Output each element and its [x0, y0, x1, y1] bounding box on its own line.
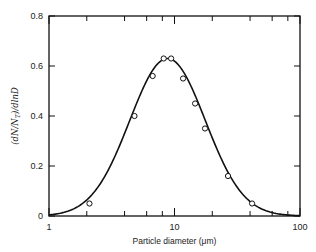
x-axis-title: Particle diameter (μm): [133, 236, 217, 246]
y-tick-label: 0.6: [30, 61, 43, 71]
data-point: [202, 126, 207, 131]
data-point: [225, 173, 230, 178]
x-axis-ticks: 110100: [46, 16, 307, 232]
x-tick-label: 100: [292, 222, 307, 232]
data-point: [180, 76, 185, 81]
data-point: [193, 101, 198, 106]
y-tick-label: 0: [38, 211, 43, 221]
y-tick-label: 0.8: [30, 11, 43, 21]
y-tick-label: 0.4: [30, 111, 43, 121]
plot-frame: [49, 16, 300, 216]
y-axis-title: (dN/NT)/dlnD: [10, 87, 22, 145]
data-markers: [87, 56, 255, 206]
data-point: [249, 201, 254, 206]
data-point: [132, 113, 137, 118]
y-tick-label: 0.2: [30, 161, 43, 171]
x-tick-label: 10: [169, 222, 179, 232]
y-axis-ticks: 00.20.40.60.8: [30, 11, 300, 221]
data-point: [161, 56, 166, 61]
particle-size-distribution-chart: 00.20.40.60.8 110100 Particle diameter (…: [0, 0, 316, 252]
data-point: [169, 56, 174, 61]
x-tick-label: 1: [46, 222, 51, 232]
data-point: [150, 73, 155, 78]
fit-curve: [49, 59, 300, 216]
data-point: [87, 201, 92, 206]
